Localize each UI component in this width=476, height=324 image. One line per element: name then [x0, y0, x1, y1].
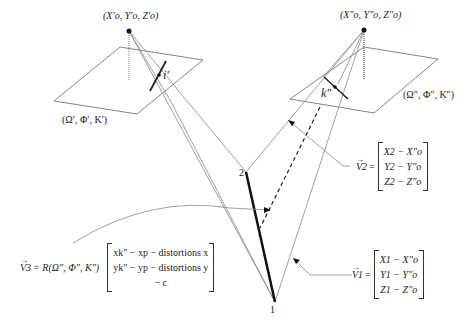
v3-row-c: − c: [113, 275, 208, 290]
point-1-label: 1: [270, 304, 275, 315]
right-image-point-label: k″: [321, 86, 331, 101]
v3-row-x: xk″ − xp − distortions x: [113, 245, 208, 260]
v3-equation: →V3 = R(Ω″, Φ″, K″) xk″ − xp − distortio…: [20, 243, 214, 292]
v3-symbol: →V3: [20, 262, 31, 273]
v2-row-z: Z2 − Z″o: [384, 174, 422, 189]
v3-matrix: xk″ − xp − distortions x yk″ − yp − dist…: [107, 243, 214, 292]
point-2-label: 2: [239, 167, 244, 178]
left-image-point-label: i′: [163, 68, 169, 83]
left-center-label: (X′o, Y′o, Z′o): [103, 10, 158, 21]
left-ray-a: [129, 31, 246, 172]
v1-row-z: Z1 − Z″o: [380, 282, 418, 297]
v1-equation: →V1 = X1 − X″o Y1 − Y″o Z1 − Z″o: [352, 250, 424, 299]
right-ray-a: [246, 30, 364, 172]
v1-arrowhead: [293, 258, 300, 264]
right-center-label: (X″o, Y″o, Z″o): [340, 9, 401, 20]
right-ray-b: [275, 30, 364, 302]
v3-leader: [73, 205, 268, 243]
right-image-point: [333, 85, 337, 89]
left-image-plane: [54, 47, 203, 114]
v3-row-y: yk″ − yp − distortions y: [113, 260, 208, 275]
left-orientation-label: (Ω′, Φ′, K′): [62, 114, 107, 125]
v1-row-y: Y1 − Y″o: [380, 267, 418, 282]
right-ray-c: [323, 30, 364, 77]
v1-matrix: X1 − X″o Y1 − Y″o Z1 − Z″o: [374, 250, 424, 299]
v2-symbol: →V2: [356, 161, 367, 172]
v1-row-x: X1 − X″o: [380, 252, 418, 267]
v2-matrix: X2 − X″o Y2 − Y″o Z2 − Z″o: [378, 142, 428, 191]
v1-leader: [293, 258, 352, 275]
v3-rotation: = R(Ω″, Φ″, K″): [33, 262, 99, 273]
left-image-point: [157, 73, 161, 77]
v2-leader: [288, 120, 350, 166]
v2-equation: →V2 = X2 − X″o Y2 − Y″o Z2 − Z″o: [356, 142, 428, 191]
v2-equals: =: [369, 161, 375, 172]
ground-segment: [246, 172, 275, 302]
v2-row-y: Y2 − Y″o: [384, 159, 422, 174]
left-perspective-center: [127, 29, 132, 34]
right-orientation-label: (Ω″, Φ″, K″): [403, 89, 454, 100]
right-perspective-center: [362, 28, 367, 33]
v1-equals: =: [365, 269, 371, 280]
v1-symbol: →V1: [352, 269, 363, 280]
v2-row-x: X2 − X″o: [384, 144, 422, 159]
